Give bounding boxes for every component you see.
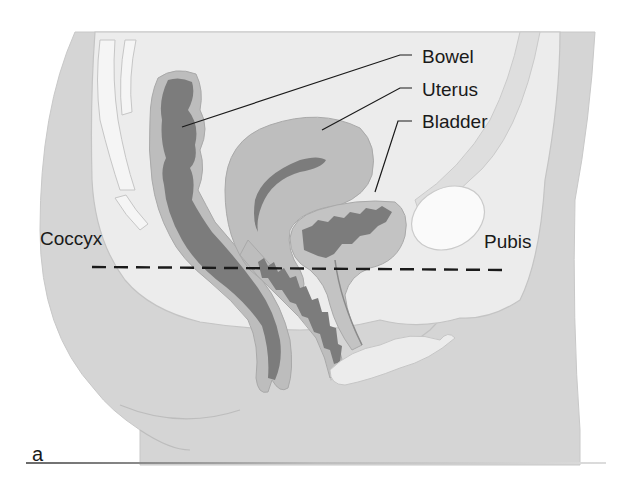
bottom-divider bbox=[26, 462, 606, 464]
label-uterus: Uterus bbox=[422, 80, 478, 99]
label-pubis: Pubis bbox=[484, 232, 532, 251]
label-bowel: Bowel bbox=[422, 47, 474, 66]
label-coccyx: Coccyx bbox=[40, 229, 102, 248]
label-bladder: Bladder bbox=[422, 112, 488, 131]
